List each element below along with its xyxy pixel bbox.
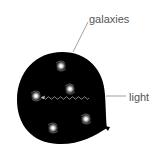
light-label: light [129,92,149,103]
galaxy-icon [80,113,92,125]
galaxy-icon [64,83,76,95]
galaxy-icon [30,90,42,102]
galaxy-icon [47,122,59,134]
galaxies-label: galaxies [89,14,129,25]
galaxy-icon [55,60,67,72]
balloon-diagram [0,0,162,150]
galaxies-leader-line [73,22,88,52]
